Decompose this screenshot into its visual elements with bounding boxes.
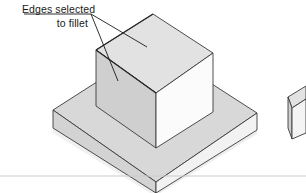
- callout-text-line2: to fillet: [57, 17, 88, 29]
- isometric-cad-figure: Edges selected to fillet: [0, 0, 306, 193]
- callout-text-line1: Edges selected: [22, 3, 95, 15]
- figure-canvas: Edges selected to fillet: [0, 0, 306, 193]
